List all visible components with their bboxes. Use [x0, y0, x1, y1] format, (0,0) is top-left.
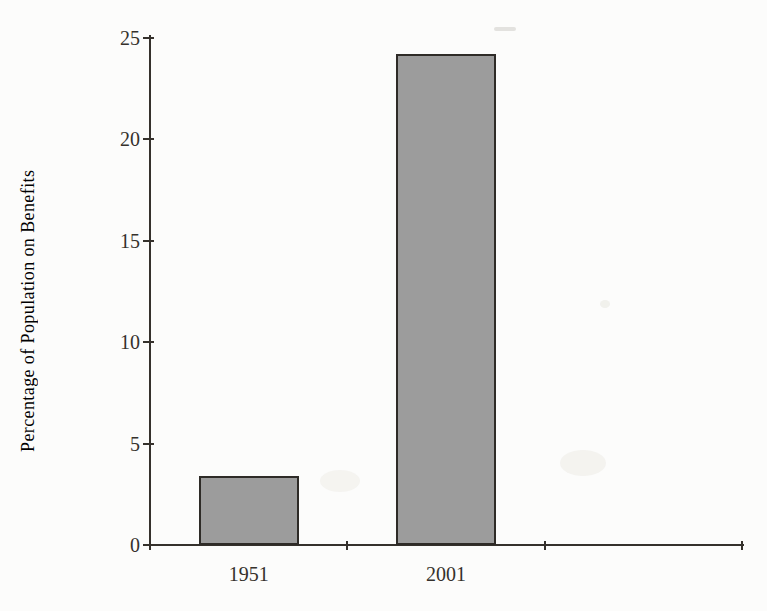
- bar-chart: 051015202519512001: [0, 0, 767, 611]
- scan-speck: [560, 450, 606, 476]
- y-tick: [143, 443, 154, 445]
- x-category-label: 1951: [204, 563, 294, 585]
- x-tick: [741, 541, 743, 550]
- y-tick-label: 25: [98, 27, 140, 49]
- y-tick-label: 5: [98, 433, 140, 455]
- scan-speck: [494, 27, 516, 31]
- y-tick: [143, 37, 154, 39]
- scan-speck: [600, 300, 610, 308]
- y-tick-label: 20: [98, 128, 140, 150]
- scan-speck: [320, 470, 360, 492]
- bar-1951: [199, 476, 299, 545]
- x-category-label: 2001: [401, 563, 491, 585]
- bar-2001: [396, 54, 496, 545]
- x-tick: [346, 541, 348, 550]
- y-tick-label: 0: [98, 534, 140, 556]
- y-tick: [143, 341, 154, 343]
- y-axis-line: [149, 35, 151, 547]
- y-tick: [143, 138, 154, 140]
- y-tick-label: 15: [98, 230, 140, 252]
- y-tick-label: 10: [98, 331, 140, 353]
- y-tick: [143, 240, 154, 242]
- scanned-chart-page: Percentage of Population on Benefits 051…: [0, 0, 767, 611]
- x-tick: [149, 541, 151, 550]
- x-tick: [544, 541, 546, 550]
